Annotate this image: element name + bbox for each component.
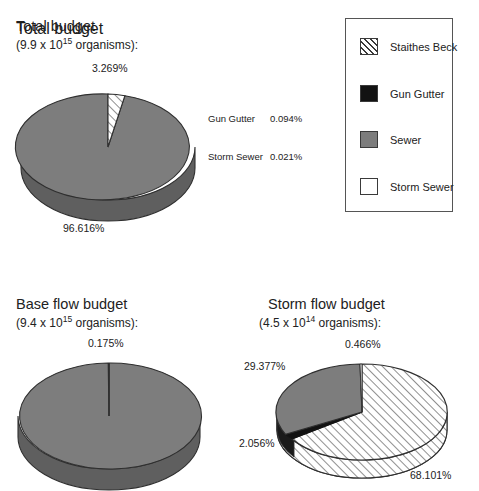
side-note-storm-sewer-name: Storm Sewer [208,151,270,164]
side-note-gun-gutter-value: 0.094% [270,113,302,124]
legend-item-sewer[interactable]: Sewer [360,131,421,148]
legend-swatch-gray-icon [360,131,378,148]
side-note-storm-sewer: Storm Sewer0.021% [208,151,302,164]
legend-swatch-black-icon [360,85,378,102]
legend-item-staithes-beck[interactable]: Staithes Beck [360,38,457,55]
total-budget-label-staithes-beck: 3.269% [92,62,128,74]
storm-flow-budget-label-storm-sewer: 0.466% [345,338,381,350]
storm-flow-budget-pie [272,350,462,475]
storm-flow-subtitle-suffix: organisms): [315,316,381,330]
base-flow-budget-subtitle: (9.4 x 1015 organisms): [16,315,138,331]
side-note-storm-sewer-value: 0.021% [270,151,302,162]
side-note-gun-gutter: Gun Gutter0.094% [208,113,302,126]
storm-flow-budget-subtitle: (4.5 x 1014 organisms): [259,315,381,331]
total-budget-title-text: Total budget [16,18,95,35]
legend-label-staithes-beck: Staithes Beck [390,41,457,53]
legend-swatch-hatched-icon [360,38,378,55]
total-budget-subtitle-suffix: organisms): [72,38,138,52]
total-budget-subtitle: (9.9 x 1015 organisms): [16,37,138,53]
total-budget-pie [18,75,198,220]
base-flow-subtitle-suffix: organisms): [72,316,138,330]
storm-flow-subtitle-exponent: 14 [306,314,315,324]
total-budget-subtitle-exponent: 15 [63,36,72,46]
base-flow-slice-sewer [20,363,202,469]
base-flow-budget-title: Base flow budget [16,296,127,313]
total-budget-subtitle-prefix: (9.9 x 10 [16,38,63,52]
legend-swatch-white-icon [360,178,378,195]
legend-item-storm-sewer[interactable]: Storm Sewer [360,178,454,195]
storm-flow-budget-label-gun-gutter: 2.056% [239,437,275,449]
base-flow-budget-label-staithes-beck: 0.175% [88,337,124,349]
legend-label-gun-gutter: Gun Gutter [390,88,444,100]
base-flow-budget-pie [14,352,204,487]
base-flow-subtitle-exponent: 15 [63,314,72,324]
legend-label-sewer: Sewer [390,134,421,146]
side-note-gun-gutter-name: Gun Gutter [208,113,270,126]
storm-flow-subtitle-prefix: (4.5 x 10 [259,316,306,330]
storm-flow-budget-title: Storm flow budget [268,296,385,313]
total-budget-label-sewer: 96.616% [63,222,104,234]
legend-item-gun-gutter[interactable]: Gun Gutter [360,85,444,102]
total-budget-side-notes: Gun Gutter0.094% Storm Sewer0.021% [208,88,302,176]
total-budget-slice-sewer [15,94,189,200]
legend: Staithes Beck Gun Gutter Sewer Storm Sew… [345,18,453,212]
legend-label-storm-sewer: Storm Sewer [390,181,454,193]
base-flow-subtitle-prefix: (9.4 x 10 [16,316,63,330]
